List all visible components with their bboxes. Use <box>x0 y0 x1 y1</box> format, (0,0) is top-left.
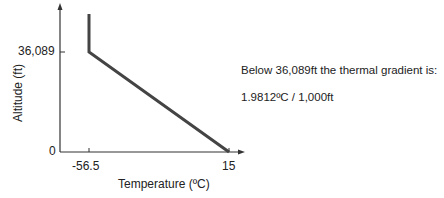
temperature-profile-line <box>89 14 229 152</box>
y-axis-title: Altitude (ft) <box>11 58 25 128</box>
y-axis-arrow-icon <box>58 3 63 10</box>
annotation-line-2: 1.9812ºC / 1,000ft <box>241 91 333 103</box>
annotation-line-1: Below 36,089ft the thermal gradient is: <box>241 64 437 76</box>
y-tick-label-36089: 36,089 <box>18 44 55 58</box>
y-tick-label-0: 0 <box>49 144 56 158</box>
x-axis-title: Temperature (ºC) <box>118 177 210 191</box>
x-tick-label-15: 15 <box>222 159 235 173</box>
x-tick-label-minus56: -56.5 <box>72 159 99 173</box>
x-axis-arrow-icon <box>238 150 245 155</box>
